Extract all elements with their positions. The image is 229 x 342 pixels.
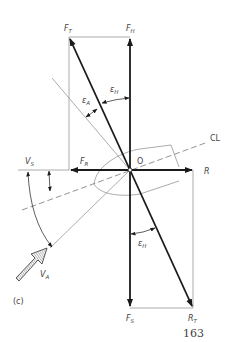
- origin-point: [128, 168, 132, 172]
- page-number: 163: [183, 327, 204, 340]
- label-eps-H-top: εH: [110, 85, 118, 95]
- label-F_T: FT: [64, 24, 73, 34]
- angle-arc-eps-A: [86, 109, 97, 117]
- vector-R_T: [130, 170, 192, 306]
- label-V_S: VS: [25, 157, 34, 167]
- label-centerline: CL: [210, 134, 221, 143]
- angle-arc-wind: [28, 172, 52, 247]
- angle-arc-eps-H-bottom: [131, 228, 155, 234]
- force-vectors: [70, 39, 192, 306]
- label-R: R: [204, 167, 210, 176]
- label-V_A: VA: [40, 270, 49, 280]
- label-eps-H-bottom: εH: [138, 239, 146, 249]
- label-F_R: FR: [80, 157, 89, 167]
- sail-force-diagram: FT FH εA εH FR VS O CL R εH VA (c) FS RT…: [0, 0, 229, 342]
- panel-label: (c): [13, 297, 24, 306]
- apparent-wind-line-lower: [50, 170, 130, 248]
- label-R_T: RT: [188, 314, 198, 324]
- angle-markers: [28, 98, 155, 247]
- angle-arc-leeway: [49, 171, 50, 191]
- label-origin: O: [137, 157, 143, 166]
- label-F_H: FH: [126, 24, 135, 34]
- label-eps-A: εA: [82, 96, 90, 106]
- angle-arc-eps-H-top: [102, 98, 129, 103]
- label-F_S: FS: [126, 314, 135, 324]
- vector-F_T: [70, 39, 130, 170]
- construction-lines: [18, 37, 193, 308]
